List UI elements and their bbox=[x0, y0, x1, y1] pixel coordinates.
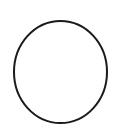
canvas-background bbox=[0, 0, 119, 131]
circle-figure bbox=[0, 0, 119, 131]
drawing-canvas bbox=[0, 0, 119, 131]
